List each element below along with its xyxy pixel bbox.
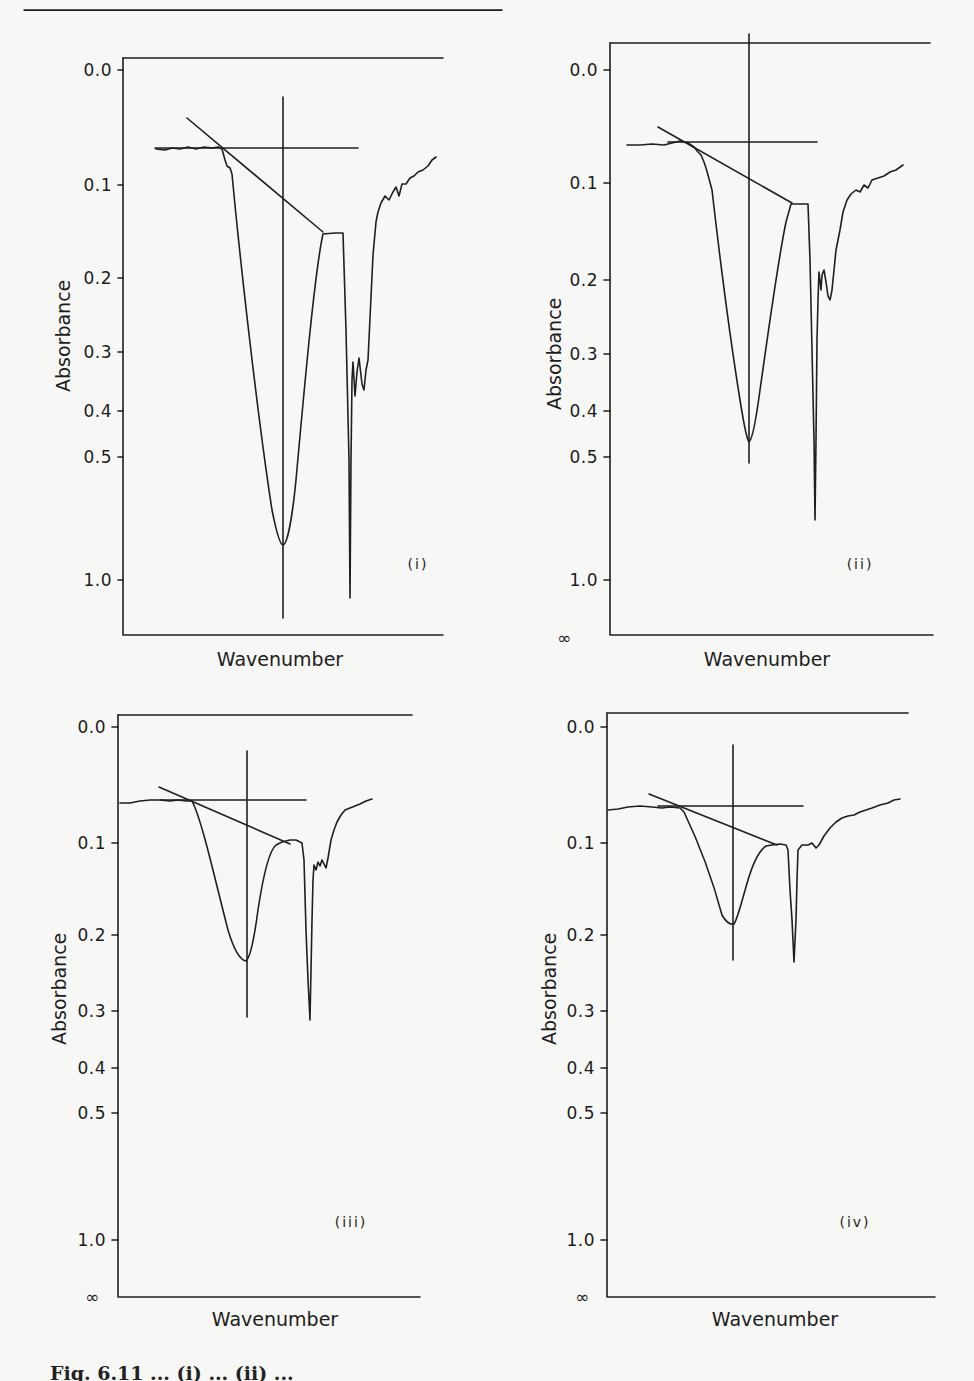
panel-ii-chart	[604, 34, 933, 635]
panel-iii-tick-1: 0.1	[56, 833, 106, 853]
panel-iii-ticks	[112, 727, 118, 1240]
panel-iii-tick-5: 0.5	[56, 1103, 106, 1123]
panel-ii-tick-1: 0.1	[548, 173, 598, 193]
panel-iii-spectrum	[120, 799, 372, 1020]
panel-i-y-axis-label: Absorbance	[52, 280, 74, 392]
panel-ii-spectrum	[627, 141, 903, 520]
panel-ii-tick-0: 0.0	[548, 60, 598, 80]
panel-iv-label: (iv)	[839, 1214, 870, 1230]
panel-ii-y-axis-label: Absorbance	[543, 298, 565, 410]
panel-iii-tick-6: 1.0	[56, 1230, 106, 1250]
panel-i-tick-4: 0.4	[62, 401, 112, 421]
panel-i-tick-5: 0.5	[62, 447, 112, 467]
panel-ii-tick-6: 1.0	[548, 570, 598, 590]
panel-iv-chart	[601, 713, 935, 1297]
panel-iv-tick-6: 1.0	[545, 1230, 595, 1250]
panel-iv-axes	[607, 713, 935, 1297]
figure-caption: Fig. 6.11 ... (i) ... (ii) ...	[50, 1362, 294, 1381]
panel-iv-tangent-baseline	[649, 794, 777, 845]
panel-ii-x-axis-label: Wavenumber	[704, 648, 830, 670]
panel-iii-tick-infinity: ∞	[50, 1287, 100, 1307]
panel-iii-tick-4: 0.4	[56, 1058, 106, 1078]
panel-i-x-axis-label: Wavenumber	[217, 648, 343, 670]
panel-iv-tick-5: 0.5	[545, 1103, 595, 1123]
panel-iii-y-axis-label: Absorbance	[48, 933, 70, 1045]
figure-canvas	[0, 0, 974, 1381]
panel-ii-tangent-baseline	[658, 127, 792, 203]
panel-ii-label: (ii)	[847, 556, 874, 572]
panel-ii-tick-2: 0.2	[548, 270, 598, 290]
panel-i-label: (i)	[408, 556, 429, 572]
panel-iv-x-axis-label: Wavenumber	[712, 1308, 838, 1330]
panel-iv-y-axis-label: Absorbance	[538, 933, 560, 1045]
panel-iii-tick-0: 0.0	[56, 717, 106, 737]
panel-iii-axes	[118, 715, 420, 1297]
panel-i-tick-6: 1.0	[62, 570, 112, 590]
panel-ii-tick-infinity: ∞	[522, 628, 572, 648]
panel-i-tangent-baseline	[187, 118, 323, 232]
panel-i-tick-1: 0.1	[62, 175, 112, 195]
panel-i-spectrum	[156, 147, 436, 598]
panel-iv-tick-1: 0.1	[545, 833, 595, 853]
panel-i-tick-0: 0.0	[62, 60, 112, 80]
panel-iv-spectrum	[608, 799, 900, 962]
panel-ii-tick-5: 0.5	[548, 447, 598, 467]
panel-iii-chart	[112, 715, 420, 1297]
panel-i-chart	[118, 58, 443, 635]
panel-iii-label: (iii)	[335, 1214, 368, 1230]
panel-iii-tangent-baseline	[159, 787, 290, 844]
panel-iv-tick-infinity: ∞	[540, 1287, 590, 1307]
panel-iii-x-axis-label: Wavenumber	[212, 1308, 338, 1330]
panel-ii-ticks	[604, 70, 610, 580]
panel-ii-axes	[610, 43, 933, 635]
panel-iv-ticks	[601, 727, 607, 1240]
panel-iv-tick-0: 0.0	[545, 717, 595, 737]
panel-iv-tick-4: 0.4	[545, 1058, 595, 1078]
